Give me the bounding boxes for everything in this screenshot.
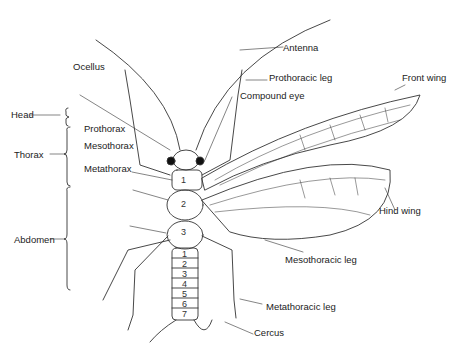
abdomen-segment-number: 4 xyxy=(182,280,187,289)
left-prothoracic-leg xyxy=(125,70,170,175)
label-compound-eye: Compound eye xyxy=(240,91,304,101)
abdomen-segment-number: 1 xyxy=(182,250,187,259)
metathoracic-leg-leader xyxy=(240,299,262,304)
insect-drawing xyxy=(0,0,457,344)
label-metathoracic-leg: Metathoracic leg xyxy=(266,302,336,312)
compound-eye-leader xyxy=(205,97,232,160)
label-thorax: Thorax xyxy=(14,150,44,160)
prothorax-shape xyxy=(172,170,202,190)
abdomen-segment-number: 3 xyxy=(182,270,187,279)
mesothorax-leader xyxy=(133,190,168,200)
right-cercus xyxy=(194,320,212,330)
abdomen-segment-number: 7 xyxy=(182,310,187,319)
left-metathoracic-leg xyxy=(128,236,168,330)
insect-anatomy-diagram: Head Thorax Abdomen Ocellus Antenna Prot… xyxy=(0,0,457,344)
abdomen-segment-number: 5 xyxy=(182,290,187,299)
label-antenna: Antenna xyxy=(283,43,318,53)
label-prothorax: Prothorax xyxy=(84,124,125,134)
thorax-segment-number: 1 xyxy=(181,176,186,185)
metathorax-leader xyxy=(130,226,166,233)
head-brace xyxy=(66,108,69,126)
left-cercus xyxy=(150,320,176,342)
label-abdomen: Abdomen xyxy=(14,235,55,245)
label-mesothorax: Mesothorax xyxy=(84,141,134,151)
antenna-leader xyxy=(240,47,283,50)
front-wing xyxy=(202,95,420,190)
label-mesothoracic-leg: Mesothoracic leg xyxy=(285,255,357,265)
hind-wing xyxy=(202,164,390,239)
label-prothoracic-leg: Prothoracic leg xyxy=(269,73,332,83)
thorax-brace xyxy=(64,127,70,186)
abdomen-segment-number: 6 xyxy=(182,300,187,309)
mesothoracic-leg-leader xyxy=(265,240,303,252)
right-metathoracic-leg xyxy=(202,236,236,318)
right-compound-eye xyxy=(196,157,204,165)
left-compound-eye xyxy=(167,157,175,165)
head-shape xyxy=(173,150,199,170)
label-cercus: Cercus xyxy=(254,328,284,338)
abdomen-segment-number: 2 xyxy=(182,260,187,269)
label-front-wing: Front wing xyxy=(402,73,446,83)
thorax-segment-number: 3 xyxy=(181,228,186,237)
label-head: Head xyxy=(11,110,34,120)
abdomen-brace xyxy=(64,187,70,290)
left-mesothoracic-leg xyxy=(103,240,170,300)
cercus-leader xyxy=(225,322,253,334)
label-ocellus: Ocellus xyxy=(73,62,105,72)
thorax-segment-number: 2 xyxy=(181,200,186,209)
label-metathorax: Metathorax xyxy=(84,164,132,174)
right-antenna xyxy=(196,20,330,150)
label-hind-wing: Hind wing xyxy=(379,206,421,216)
front-wing-leader xyxy=(395,85,405,90)
